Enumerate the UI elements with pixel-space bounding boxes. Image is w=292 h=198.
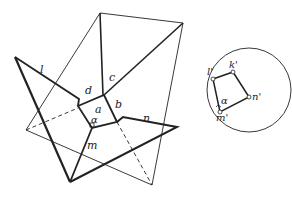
label-n: n: [143, 112, 150, 125]
pole-n-prime: [247, 95, 251, 99]
label-d: d: [85, 84, 92, 97]
pole-k-prime: [231, 70, 235, 74]
label-b: b: [115, 98, 122, 111]
label-l: l: [40, 63, 44, 76]
label-c: c: [109, 71, 115, 84]
label-l-prime: l': [207, 66, 213, 77]
pole-l-prime: [211, 77, 215, 81]
label-k-prime: k': [229, 59, 238, 70]
main-labels: l d c a b α n m: [40, 63, 150, 152]
label-alpha-prime: α: [221, 95, 228, 106]
diagram-canvas: l d c a b α n m l' k' n' m' α: [0, 0, 292, 198]
label-m-prime: m': [216, 112, 228, 123]
label-n-prime: n': [252, 91, 261, 102]
label-alpha: α: [91, 114, 98, 125]
label-m: m: [87, 139, 97, 152]
prism-outline: [26, 13, 183, 185]
